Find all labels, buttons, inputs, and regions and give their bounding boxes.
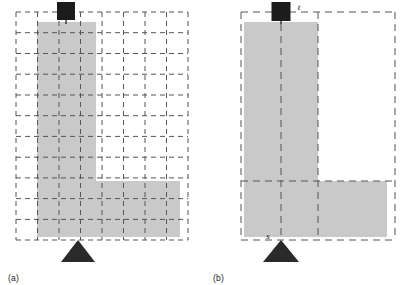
panel-a-caption: (a) bbox=[8, 273, 19, 283]
panel-b: t s bbox=[207, 0, 414, 285]
panel-b-canvas: t s bbox=[207, 0, 414, 262]
label-t: t bbox=[298, 2, 301, 12]
support-node-a bbox=[61, 240, 95, 262]
region-arm-a bbox=[37, 181, 180, 237]
load-node-b: t bbox=[272, 2, 301, 24]
load-square-icon-a bbox=[57, 2, 75, 20]
region-arm-b bbox=[244, 181, 387, 237]
load-node-a bbox=[57, 2, 75, 24]
figure-root: t s (a) (b) bbox=[0, 0, 414, 285]
support-triangle-icon-a bbox=[61, 240, 95, 262]
region-stem-a bbox=[37, 22, 96, 207]
panel-a bbox=[0, 0, 207, 285]
l-shaped-region-a bbox=[37, 22, 180, 237]
panel-a-canvas bbox=[0, 0, 207, 262]
label-s: s bbox=[266, 231, 270, 241]
support-triangle-icon-b bbox=[263, 240, 299, 262]
panel-b-caption: (b) bbox=[213, 273, 224, 283]
l-shaped-region-b bbox=[244, 22, 387, 237]
load-square-icon-b bbox=[272, 2, 291, 21]
